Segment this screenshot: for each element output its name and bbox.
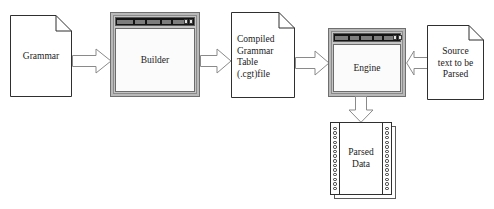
node-parsed-data-label: Parsed Data bbox=[348, 147, 373, 170]
node-parsed-data-label-line-2: Data bbox=[348, 159, 373, 171]
builder-titlebar bbox=[115, 17, 195, 26]
node-engine-window[interactable]: Engine bbox=[328, 28, 406, 97]
close-icon[interactable] bbox=[189, 19, 193, 24]
node-engine-label: Engine bbox=[354, 63, 381, 73]
node-cgt-label-line-1: Compiled bbox=[237, 34, 295, 46]
arrow-cgt-to-engine bbox=[295, 50, 330, 76]
close-icon[interactable] bbox=[398, 35, 402, 40]
engine-window-controls[interactable] bbox=[393, 35, 403, 40]
minimize-icon[interactable] bbox=[184, 19, 188, 24]
node-cgt-label: Compiled Grammar Table (.cgt)file bbox=[237, 34, 295, 80]
node-source-label-line-3: Parsed bbox=[427, 69, 484, 81]
node-source-label-line-1: Source bbox=[427, 46, 484, 58]
builder-client-area: Builder bbox=[115, 28, 195, 92]
builder-window-controls[interactable] bbox=[184, 19, 194, 24]
node-parsed-data-label-line-1: Parsed bbox=[348, 147, 373, 159]
arrow-engine-to-parsed-data bbox=[348, 96, 374, 123]
engine-titlebar-decoration bbox=[335, 36, 393, 40]
engine-client-area: Engine bbox=[333, 44, 401, 92]
arrow-grammar-to-builder bbox=[72, 48, 112, 74]
parsed-data-sheet: Parsed Data bbox=[330, 122, 392, 195]
node-builder-label: Builder bbox=[141, 55, 170, 65]
tractor-holes-left bbox=[331, 123, 340, 194]
arrow-source-to-engine bbox=[406, 50, 428, 76]
node-parsed-data: Parsed Data bbox=[330, 122, 392, 195]
node-builder-window[interactable]: Builder bbox=[110, 12, 200, 97]
diagram-canvas: Grammar Builder bbox=[0, 0, 494, 209]
parsed-data-body: Parsed Data bbox=[340, 123, 382, 194]
node-source-document: Source text to be Parsed bbox=[427, 25, 484, 100]
tractor-holes-right bbox=[382, 123, 391, 194]
engine-titlebar bbox=[333, 33, 401, 42]
node-cgt-label-line-4: (.cgt)file bbox=[237, 69, 295, 81]
node-cgt-label-line-2: Grammar bbox=[237, 46, 295, 58]
node-source-label-line-2: text to be bbox=[427, 58, 484, 70]
node-grammar-label: Grammar bbox=[10, 51, 72, 63]
node-grammar-document: Grammar bbox=[10, 15, 72, 97]
minimize-icon[interactable] bbox=[393, 35, 397, 40]
node-cgt-document: Compiled Grammar Table (.cgt)file bbox=[231, 12, 295, 98]
builder-titlebar-decoration bbox=[117, 20, 184, 24]
arrow-builder-to-cgt bbox=[200, 48, 232, 74]
node-cgt-label-line-3: Table bbox=[237, 57, 295, 69]
node-source-label: Source text to be Parsed bbox=[427, 46, 484, 81]
